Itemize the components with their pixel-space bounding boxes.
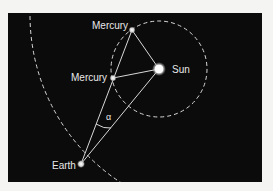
label-mercury-top: Mercury [92,20,128,31]
mercury-top-icon [129,27,136,34]
label-alpha: α [106,112,111,122]
diagram: Mercury Mercury Sun Earth α [0,0,273,191]
label-mercury-mid: Mercury [71,72,107,83]
sun-core [155,65,163,73]
mercury-mid-icon [110,75,117,82]
label-sun: Sun [172,64,190,75]
earth-icon [77,160,85,168]
diagram-svg: Mercury Mercury Sun Earth α [0,0,273,191]
label-earth: Earth [52,160,76,171]
